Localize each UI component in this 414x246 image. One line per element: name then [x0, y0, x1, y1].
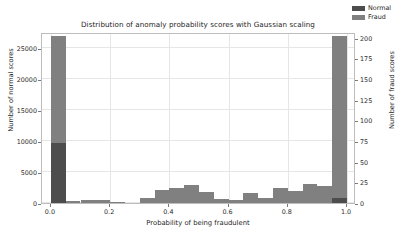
y-left-tick-label-0: 0: [33, 200, 37, 208]
y-axis-right-label: Number of fraud scores: [388, 35, 396, 145]
plot-area: [41, 33, 355, 204]
gridline-horizontal-5: [42, 47, 354, 48]
x-tick-mark-4: [287, 204, 288, 207]
bar-fraud-17: [303, 184, 318, 203]
y-left-tick-mark-3: [38, 111, 41, 112]
bar-fraud-2: [81, 200, 96, 203]
bar-fraud-9: [184, 185, 199, 203]
y-left-tick-label-2: 10000: [17, 138, 37, 146]
x-tick-mark-2: [168, 204, 169, 207]
legend-item-normal[interactable]: Normal: [352, 4, 409, 12]
y-right-tick-mark-8: [355, 39, 358, 40]
x-tick-label-0: 0.0: [45, 208, 55, 216]
legend-label-normal: Normal: [368, 4, 391, 12]
chart-figure: Distribution of anomaly probability scor…: [0, 0, 414, 246]
bar-fraud-4: [110, 202, 125, 203]
gridline-horizontal-4: [42, 78, 354, 79]
y-right-tick-label-0: 0: [360, 200, 364, 208]
y-right-tick-mark-4: [355, 121, 358, 122]
y-left-tick-label-1: 5000: [21, 169, 37, 177]
gridline-vertical-3: [229, 34, 230, 203]
y-axis-right-tick-labels: 0255075100125150175200: [360, 33, 390, 204]
x-tick-mark-5: [346, 204, 347, 207]
legend-swatch-normal: [352, 6, 365, 11]
y-left-tick-label-3: 15000: [17, 107, 37, 115]
y-right-tick-mark-2: [355, 163, 358, 164]
bar-fraud-3: [95, 200, 110, 203]
bar-fraud-12: [229, 200, 244, 203]
y-right-tick-mark-6: [355, 80, 358, 81]
bar-fraud-11: [214, 199, 229, 203]
x-tick-mark-0: [50, 204, 51, 207]
chart-title: Distribution of anomaly probability scor…: [41, 20, 355, 29]
y-right-tick-mark-1: [355, 183, 358, 184]
y-left-tick-mark-4: [38, 80, 41, 81]
y-right-tick-label-7: 175: [360, 55, 372, 63]
y-left-tick-label-4: 20000: [17, 76, 37, 84]
gridline-horizontal-1: [42, 171, 354, 172]
y-axis-right-tick-marks: [355, 33, 359, 204]
gridline-vertical-1: [110, 34, 111, 203]
bar-fraud-16: [288, 191, 303, 203]
legend-label-fraud: Fraud: [368, 13, 386, 21]
bar-fraud-1: [66, 201, 81, 203]
bar-fraud-14: [258, 198, 273, 203]
bar-fraud-8: [169, 188, 184, 203]
x-tick-label-1: 0.2: [104, 208, 114, 216]
x-tick-label-4: 0.8: [282, 208, 292, 216]
y-left-tick-mark-1: [38, 173, 41, 174]
gridline-vertical-4: [288, 34, 289, 203]
y-right-tick-label-8: 200: [360, 35, 372, 43]
x-tick-label-3: 0.6: [223, 208, 233, 216]
y-right-tick-label-6: 150: [360, 76, 372, 84]
x-axis-tick-labels: 0.00.20.40.60.81.0: [41, 208, 355, 218]
y-axis-left-label: Number of normal scores: [7, 35, 15, 145]
x-tick-label-5: 1.0: [341, 208, 351, 216]
bar-fraud-10: [199, 192, 214, 203]
y-left-tick-label-5: 25000: [17, 45, 37, 53]
bar-fraud-15: [273, 188, 288, 203]
x-axis-label: Probability of being fraudulent: [41, 219, 355, 227]
legend-item-fraud[interactable]: Fraud: [352, 13, 409, 21]
y-left-tick-mark-2: [38, 142, 41, 143]
x-tick-mark-3: [228, 204, 229, 207]
y-right-tick-label-5: 125: [360, 97, 372, 105]
bar-fraud-19: [332, 36, 347, 203]
y-right-tick-label-2: 50: [360, 159, 368, 167]
bar-fraud-13: [243, 193, 258, 203]
y-right-tick-label-4: 100: [360, 117, 372, 125]
gridline-vertical-2: [169, 34, 170, 203]
y-right-tick-mark-3: [355, 142, 358, 143]
y-right-tick-mark-7: [355, 59, 358, 60]
y-right-tick-mark-0: [355, 204, 358, 205]
y-right-tick-label-1: 25: [360, 179, 368, 187]
y-axis-left-tick-marks: [37, 33, 41, 204]
legend-swatch-fraud: [352, 15, 365, 20]
bar-normal-19: [332, 198, 347, 203]
x-tick-label-2: 0.4: [163, 208, 173, 216]
gridline-vertical-5: [347, 34, 348, 203]
bar-fraud-7: [155, 190, 170, 203]
bar-fraud-18: [317, 186, 332, 203]
x-tick-mark-1: [109, 204, 110, 207]
gridline-horizontal-3: [42, 109, 354, 110]
y-left-tick-mark-5: [38, 49, 41, 50]
y-right-tick-label-3: 75: [360, 138, 368, 146]
gridline-horizontal-2: [42, 140, 354, 141]
y-right-tick-mark-5: [355, 101, 358, 102]
chart-legend: NormalFraud: [349, 2, 411, 24]
bar-normal-0: [51, 143, 66, 203]
bar-fraud-6: [140, 198, 155, 203]
